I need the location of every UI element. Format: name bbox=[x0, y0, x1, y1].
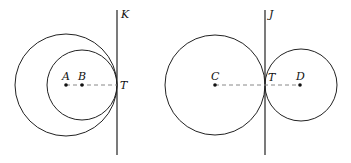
label-c: C bbox=[211, 70, 220, 83]
label-j: J bbox=[267, 8, 274, 21]
center-a-point bbox=[64, 83, 68, 87]
label-a: A bbox=[61, 70, 70, 83]
figure-internal-tangent: K A B T bbox=[15, 8, 130, 155]
label-t-right: T bbox=[268, 71, 277, 84]
figure-external-tangent: J C T D bbox=[165, 8, 337, 155]
center-c-point bbox=[213, 83, 217, 87]
center-b-point bbox=[80, 83, 84, 87]
label-k: K bbox=[120, 8, 130, 21]
tangent-circles-diagram: K A B T J C T D bbox=[0, 0, 351, 163]
label-d: D bbox=[295, 70, 305, 83]
label-t-left: T bbox=[120, 79, 129, 92]
center-d-point bbox=[298, 83, 302, 87]
label-b: B bbox=[77, 70, 86, 83]
